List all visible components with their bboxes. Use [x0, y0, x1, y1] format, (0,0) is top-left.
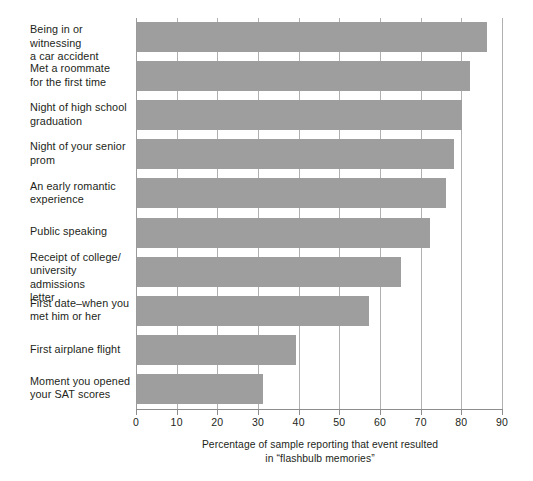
x-tick-label-90: 90	[482, 416, 522, 428]
x-tick-label-0: 0	[116, 416, 156, 428]
bar	[137, 374, 263, 404]
x-tick-10	[177, 409, 178, 415]
category-label: Night of high schoolgraduation	[30, 101, 134, 128]
bar	[137, 178, 446, 208]
category-axis-labels: Being in or witnessinga car accidentMet …	[0, 0, 132, 481]
x-tick-60	[380, 409, 381, 415]
category-label: First airplane flight	[30, 343, 134, 356]
x-axis-caption-line-1: Percentage of sample reporting that even…	[136, 438, 504, 452]
x-tick-label-50: 50	[319, 416, 359, 428]
category-label-line: Moment you opened	[30, 375, 134, 388]
category-label: An early romanticexperience	[30, 180, 134, 207]
plot-area	[136, 18, 502, 409]
flashbulb-memories-bar-chart: Being in or witnessinga car accidentMet …	[0, 0, 533, 481]
x-tick-label-30: 30	[238, 416, 278, 428]
bar	[137, 139, 454, 169]
x-tick-40	[299, 409, 300, 415]
x-tick-70	[421, 409, 422, 415]
gridline-90	[502, 18, 503, 409]
x-tick-label-20: 20	[197, 416, 237, 428]
x-tick-label-40: 40	[279, 416, 319, 428]
bar	[137, 218, 430, 248]
x-axis-line	[136, 409, 503, 410]
x-tick-30	[258, 409, 259, 415]
x-tick-label-80: 80	[441, 416, 481, 428]
bar	[137, 61, 470, 91]
category-label-line: Public speaking	[30, 225, 134, 238]
category-label-line: graduation	[30, 115, 134, 128]
category-label-line: university admissions	[30, 264, 134, 291]
category-label: Night of your seniorprom	[30, 140, 134, 167]
x-tick-80	[461, 409, 462, 415]
bar	[137, 335, 296, 365]
category-label-line: An early romantic	[30, 180, 134, 193]
category-label-line: experience	[30, 193, 134, 206]
category-label-line: First airplane flight	[30, 343, 134, 356]
category-label-line: for the first time	[30, 76, 134, 89]
x-tick-label-70: 70	[401, 416, 441, 428]
category-label: Met a roommatefor the first time	[30, 62, 134, 89]
category-label: First date–when youmet him or her	[30, 297, 134, 324]
x-tick-0	[136, 409, 137, 415]
x-tick-50	[339, 409, 340, 415]
category-label-line: Night of high school	[30, 101, 134, 114]
category-label-line: First date–when you	[30, 297, 134, 310]
x-tick-90	[502, 409, 503, 415]
bar	[137, 22, 487, 52]
x-axis-caption-line-2: in “flashbulb memories”	[136, 452, 504, 466]
bar	[137, 257, 401, 287]
category-label: Public speaking	[30, 225, 134, 238]
bar	[137, 296, 369, 326]
bar	[137, 100, 462, 130]
category-label: Moment you openedyour SAT scores	[30, 375, 134, 402]
category-label-line: prom	[30, 154, 134, 167]
x-tick-20	[217, 409, 218, 415]
x-tick-label-10: 10	[157, 416, 197, 428]
category-label-line: Receipt of college/	[30, 251, 134, 264]
x-axis-caption: Percentage of sample reporting that even…	[136, 438, 504, 465]
category-label-line: Being in or witnessing	[30, 23, 134, 50]
category-label-line: Night of your senior	[30, 140, 134, 153]
category-label-line: Met a roommate	[30, 62, 134, 75]
category-label-line: your SAT scores	[30, 388, 134, 401]
x-tick-label-60: 60	[360, 416, 400, 428]
category-label: Being in or witnessinga car accident	[30, 23, 134, 63]
category-label-line: met him or her	[30, 310, 134, 323]
